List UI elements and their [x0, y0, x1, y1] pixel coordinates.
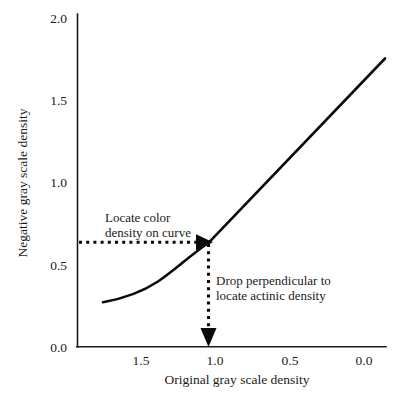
y-tick-label-1-0: 1.0: [50, 175, 67, 190]
x-tick-label-0-0: 0.0: [356, 353, 373, 368]
annotation-locate-color-line2: density on curve: [105, 225, 191, 240]
y-axis-title: Negative gray scale density: [15, 108, 30, 257]
annotation-drop-perpendicular-line1: Drop perpendicular to: [216, 273, 331, 288]
x-axis-title: Original gray scale density: [164, 372, 309, 387]
y-tick-label-0-0: 0.0: [50, 340, 67, 355]
y-tick-label-0-5: 0.5: [50, 258, 67, 273]
x-tick-label-1-5: 1.5: [133, 353, 150, 368]
x-tick-label-1-0: 1.0: [207, 353, 224, 368]
annotation-locate-color-line1: Locate color: [105, 210, 171, 225]
negative-gray-scale-density-plot: 2.0 1.5 1.0 0.5 0.0 1.5 1.0 0.5 0.0 Orig…: [0, 0, 401, 399]
y-tick-label-2-0: 2.0: [50, 11, 67, 26]
annotation-drop-perpendicular-line2: locate actinic density: [216, 288, 326, 303]
y-tick-label-1-5: 1.5: [50, 93, 67, 108]
x-tick-label-0-5: 0.5: [282, 353, 299, 368]
chart-figure: 2.0 1.5 1.0 0.5 0.0 1.5 1.0 0.5 0.0 Orig…: [0, 0, 401, 399]
